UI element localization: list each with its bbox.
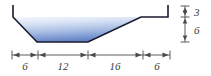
dimension-label-bottom-3: 16 [110, 61, 121, 72]
dimension-label-right-depth: 6 [194, 25, 200, 36]
dimension-label-bottom-2: 12 [58, 61, 69, 72]
dimension-label-bottom-1: 6 [22, 61, 28, 72]
figure-canvas [0, 0, 211, 76]
channel-cross-section-figure: 6 12 16 6 3 6 [0, 0, 211, 76]
dimension-label-bottom-4: 6 [154, 61, 160, 72]
dimension-label-right-freeboard: 3 [194, 7, 200, 18]
